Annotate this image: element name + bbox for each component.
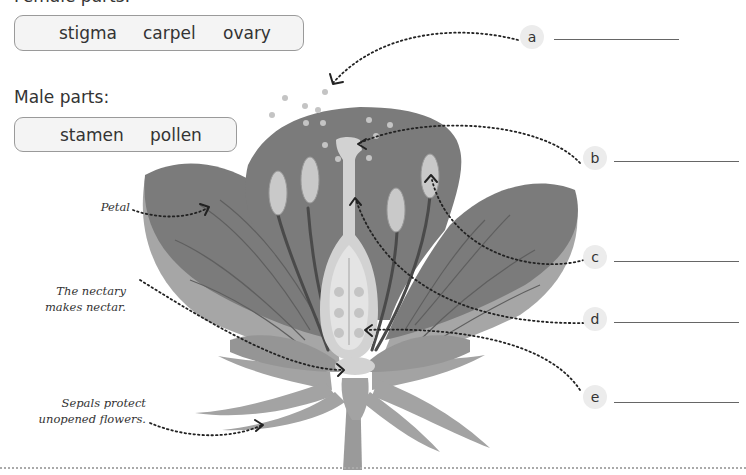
- annotation-nectary: The nectary makes nectar.: [45, 283, 126, 315]
- annotation-nectary-line1: The nectary: [45, 283, 126, 299]
- annotation-sepals: Sepals protect unopened flowers.: [39, 395, 146, 427]
- male-parts-word-bank: stamen pollen: [14, 117, 237, 152]
- word-ovary: ovary: [223, 23, 271, 43]
- bottom-dotted-divider: [0, 467, 746, 469]
- word-pollen: pollen: [150, 124, 202, 144]
- answer-line-a[interactable]: [554, 39, 679, 40]
- label-c: c: [583, 245, 607, 269]
- word-carpel: carpel: [143, 23, 196, 43]
- label-a: a: [520, 25, 544, 49]
- word-stigma: stigma: [59, 23, 117, 43]
- label-d: d: [583, 307, 607, 331]
- female-parts-heading: Female parts:: [14, 0, 130, 6]
- annotation-petal: Petal: [101, 199, 130, 215]
- answer-line-d[interactable]: [614, 322, 739, 323]
- male-parts-heading: Male parts:: [14, 87, 109, 107]
- female-parts-word-bank: stigma carpel ovary: [14, 15, 304, 51]
- annotation-sepals-line2: unopened flowers.: [39, 411, 146, 427]
- answer-line-b[interactable]: [614, 161, 739, 162]
- annotation-sepals-line1: Sepals protect: [39, 395, 146, 411]
- answer-line-e[interactable]: [614, 402, 739, 403]
- annotation-nectary-line2: makes nectar.: [45, 299, 126, 315]
- label-e: e: [583, 385, 607, 409]
- word-stamen: stamen: [60, 124, 124, 144]
- label-b: b: [583, 146, 607, 170]
- answer-line-c[interactable]: [614, 261, 739, 262]
